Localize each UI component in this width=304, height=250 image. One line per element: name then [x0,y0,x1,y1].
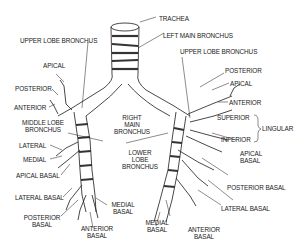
label-right-main-bronchus: RIGHT MAIN BRONCHUS [112,114,152,135]
label-left-anterior-basal-line2: BASAL [185,233,223,240]
label-left-lateral-basal: LATERAL BASAL [221,205,270,212]
label-right-posterior-basal-line2: BASAL [22,221,62,228]
trachea-top [111,23,139,31]
label-upper-lobe-bronchus-left: UPPER LOBE BRONCHUS [180,48,257,55]
label-left-posterior: POSTERIOR [225,67,262,74]
label-left-inferior: INFERIOR [221,136,251,143]
label-left-posterior-basal: POSTERIOR BASAL [227,184,286,191]
label-left-apical-basal-line2: BASAL [240,157,262,164]
label-right-anterior: ANTERIOR [14,104,46,111]
label-right-medial-basal-line1: MEDIAL [108,201,138,208]
label-lower-lobe-line2: LOBE [120,156,160,163]
label-upper-lobe-bronchus-right: UPPER LOBE BRONCHUS [20,37,97,44]
label-middle-lobe-bronchus: MIDDLE LOBE BRONCHUS [12,119,74,133]
label-right-apical-basal: APICAL BASAL [16,172,60,179]
label-left-superior: SUPERIOR [217,114,250,121]
label-lower-lobe-line3: BRONCHUS [120,163,160,170]
label-left-anterior-basal: ANTERIOR BASAL [185,226,223,240]
label-right-anterior-basal: ANTERIOR BASAL [78,225,116,239]
label-right-anterior-basal-line2: BASAL [78,232,116,239]
label-right-medial-basal-line2: BASAL [108,208,138,215]
label-left-apical-basal-line1: APICAL [240,150,262,157]
label-right-lateral: LATERAL [19,142,46,149]
label-right-posterior: POSTERIOR [15,85,52,92]
label-right-posterior-basal-line1: POSTERIOR [22,214,62,221]
label-lower-lobe-bronchus: LOWER LOBE BRONCHUS [120,149,160,170]
label-left-anterior: ANTERIOR [229,99,261,106]
label-left-main-bronchus: LEFT MAIN BRONCHUS [163,32,233,39]
label-right-posterior-basal: POSTERIOR BASAL [22,214,62,228]
label-left-medial-basal-line2: BASAL [142,226,172,233]
label-right-lateral-basal: LATERAL BASAL [15,194,64,201]
label-trachea: TRACHEA [159,15,189,22]
label-lingular: LINGULAR [262,125,293,132]
label-right-main-line2: MAIN [112,121,152,128]
label-right-anterior-basal-line1: ANTERIOR [78,225,116,232]
label-middle-lobe-line1: MIDDLE LOBE [12,119,74,126]
label-left-apical: APICAL [230,80,252,87]
label-lower-lobe-line1: LOWER [120,149,160,156]
label-right-main-line3: BRONCHUS [112,128,152,135]
label-right-apical: APICAL [43,62,65,69]
label-middle-lobe-line2: BRONCHUS [12,126,74,133]
label-left-medial-basal-line1: MEDIAL [142,219,172,226]
bronchial-tree-diagram: TRACHEA LEFT MAIN BRONCHUS UPPER LOBE BR… [0,0,304,250]
label-right-medial: MEDIAL [23,156,46,163]
label-left-anterior-basal-line1: ANTERIOR [185,226,223,233]
label-right-main-line1: RIGHT [112,114,152,121]
label-right-medial-basal: MEDIAL BASAL [108,201,138,215]
label-left-medial-basal: MEDIAL BASAL [142,219,172,233]
label-left-apical-basal: APICAL BASAL [240,150,262,164]
